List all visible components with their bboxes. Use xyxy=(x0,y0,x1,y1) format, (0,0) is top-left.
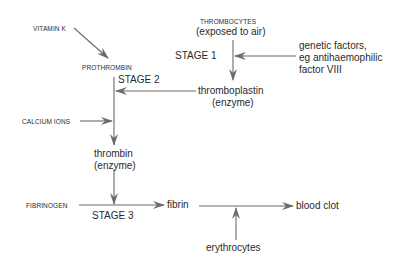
calcium-ions-label: CALCIUM IONS xyxy=(22,118,70,125)
genetic-factors-line2: eg antihaemophilic xyxy=(299,52,382,64)
thrombin-enzyme-label: (enzyme) xyxy=(94,160,136,172)
genetic-factors-line3: factor VIII xyxy=(299,64,342,76)
stage1-label: STAGE 1 xyxy=(175,50,217,62)
blood-clot-label: blood clot xyxy=(296,200,339,212)
vitamin-k-label: VITAMIN K xyxy=(33,25,66,32)
prothrombin-label: PROTHROMBIN xyxy=(82,64,132,71)
stage3-label: STAGE 3 xyxy=(92,210,134,222)
stage2-label: STAGE 2 xyxy=(118,74,160,86)
thrombocytes-label: THROMBOCYTES xyxy=(200,18,256,25)
thrombin-label: thrombin xyxy=(94,148,133,160)
exposed-to-air-label: (exposed to air) xyxy=(196,26,265,38)
thromboplastin-label: thromboplastin xyxy=(198,85,264,97)
genetic-factors-line1: genetic factors, xyxy=(299,40,367,52)
erythrocytes-label: erythrocytes xyxy=(206,242,260,254)
thromboplastin-enzyme-label: (enzyme) xyxy=(212,97,254,109)
fibrin-label: fibrin xyxy=(167,199,189,211)
arrow-vitamin-k xyxy=(74,28,108,58)
fibrinogen-label: FIBRINOGEN xyxy=(26,202,67,209)
